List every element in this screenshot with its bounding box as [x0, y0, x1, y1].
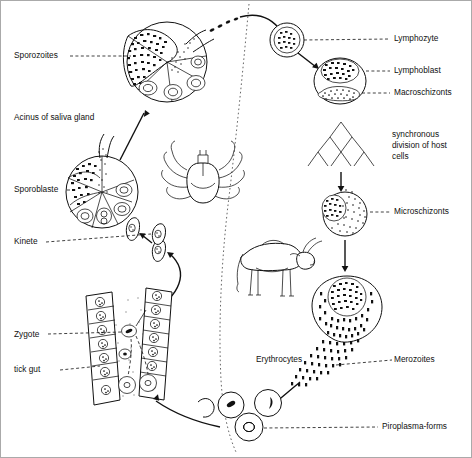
- gut-epithelium-left: [86, 292, 120, 405]
- tick-gut-epithelium: [86, 288, 172, 405]
- erythrocytes-group: [198, 390, 282, 442]
- label-acinus-of-saliva-gland: Acinus of saliva gland: [14, 112, 95, 122]
- label-macroschizonts-group: Macroschizonts: [362, 87, 452, 97]
- lymphoblast-cell: [314, 58, 366, 104]
- divider-line: [220, 4, 249, 452]
- label-macroschizonts: Macroschizonts: [394, 87, 452, 97]
- leader-piroplasma-forms: [264, 427, 378, 428]
- leader-merozoites: [336, 360, 392, 365]
- arrow-lymphozyte-to-lymphoblast: [298, 53, 319, 69]
- label-piroplasma-forms-group: Piroplasma-forms: [264, 421, 447, 431]
- label-sporozoites: Sporozoites: [14, 50, 58, 60]
- label-synchronous-division-group: synchronous division of host cells: [392, 129, 448, 161]
- synchronous-division-diagram: [308, 122, 374, 192]
- label-lymphoblast: Lymphoblast: [394, 65, 441, 75]
- label-zygote: Zygote: [14, 329, 40, 339]
- label-lymphozyte-group: Lymphozyte: [304, 33, 439, 43]
- arrow-microschizont-to-merozoites: [342, 240, 349, 272]
- label-tick-gut-group: tick gut: [14, 364, 100, 374]
- label-sporozoites-group: Sporozoites: [14, 50, 131, 60]
- label-sporoblaste: Sporoblaste: [14, 184, 59, 194]
- label-tick-gut: tick gut: [14, 364, 41, 374]
- cow-illustration: [237, 238, 322, 296]
- label-kinete: Kinete: [14, 236, 38, 246]
- microschizont-cell: [322, 189, 367, 236]
- lymphozyte-cell: [270, 23, 304, 57]
- label-erythrocytes: Erythrocytes: [256, 354, 302, 364]
- label-microschizonts-group: Microschizonts: [370, 206, 449, 216]
- merozoite-releasing-cell: [291, 276, 382, 386]
- label-lymphoblast-group: Lymphoblast: [366, 65, 441, 75]
- lifecycle-diagram: Sporozoites Acinus of saliva gland Sporo…: [0, 0, 472, 458]
- label-microschizonts: Microschizonts: [394, 206, 449, 216]
- label-synchronous-line1: synchronous: [392, 129, 439, 139]
- acinus-upper-sporozoites: [123, 22, 214, 102]
- leader-lymphozyte: [304, 39, 390, 40]
- label-synchronous-line2: division of host: [392, 140, 448, 150]
- label-merozoites: Merozoites: [394, 354, 435, 364]
- label-synchronous-line3: cells: [392, 151, 409, 161]
- label-merozoites-group: Merozoites: [336, 354, 435, 365]
- acinus-lower-sporoblaste: [66, 134, 138, 228]
- label-lymphozyte: Lymphozyte: [394, 33, 439, 43]
- arrow-sporoblaste-to-sporozoites: [120, 110, 150, 160]
- label-piroplasma-forms: Piroplasma-forms: [382, 421, 447, 431]
- kinete-cells: [126, 218, 165, 262]
